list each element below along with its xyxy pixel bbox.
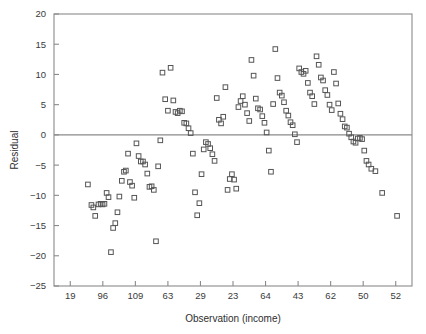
y-axis-tick-label: 10: [35, 69, 46, 80]
data-point: [115, 210, 120, 215]
data-point: [193, 190, 198, 195]
data-point: [314, 54, 319, 59]
axes-layer: [54, 14, 412, 286]
data-point: [306, 81, 311, 86]
data-point: [136, 154, 141, 159]
data-point: [210, 152, 215, 157]
data-point: [201, 147, 206, 152]
data-point: [262, 121, 267, 126]
data-point: [267, 148, 272, 153]
y-axis-tick-label: 5: [41, 99, 46, 110]
y-axis-tick-label: 20: [35, 8, 46, 19]
data-point: [323, 88, 328, 93]
data-point: [145, 171, 150, 176]
data-point: [186, 126, 191, 131]
data-point: [329, 108, 334, 113]
x-axis-tick-label: 64: [260, 290, 271, 301]
data-point: [171, 98, 176, 103]
y-axis-tick-label: −5: [35, 160, 46, 171]
y-axis-tick-label: −15: [30, 220, 46, 231]
data-point: [251, 73, 256, 78]
data-point: [223, 85, 228, 90]
x-axis-title: Observation (income): [185, 313, 281, 324]
data-point: [271, 102, 276, 107]
data-point: [158, 138, 163, 143]
data-point: [117, 194, 122, 199]
x-axis-tick-label: 62: [325, 290, 336, 301]
data-point: [132, 195, 137, 200]
y-axis-tick-label: 15: [35, 39, 46, 50]
data-point: [293, 132, 298, 137]
y-axis-tick-label: −25: [30, 280, 46, 291]
data-point: [295, 140, 300, 145]
data-point: [336, 101, 341, 106]
data-point: [195, 213, 200, 218]
axis-labels-layer: 20151050−5−10−15−20−25199610963292364436…: [30, 8, 401, 301]
data-point: [275, 76, 280, 81]
data-point: [163, 97, 168, 102]
data-point: [325, 93, 330, 98]
data-point: [253, 96, 258, 101]
data-point: [191, 151, 196, 156]
data-point: [380, 191, 385, 196]
data-point: [269, 169, 274, 174]
data-point: [86, 182, 91, 187]
data-point: [109, 250, 114, 255]
data-point: [126, 151, 131, 156]
data-point: [340, 117, 345, 122]
data-point: [120, 179, 125, 184]
y-axis-tick-label: −10: [30, 190, 46, 201]
data-point: [284, 108, 289, 113]
data-point: [327, 102, 332, 107]
data-point: [312, 102, 317, 107]
data-point: [286, 113, 291, 118]
data-point: [197, 201, 202, 206]
x-axis-tick-label: 50: [358, 290, 369, 301]
data-point: [282, 100, 287, 105]
data-point: [230, 172, 235, 177]
x-axis-tick-label: 63: [163, 290, 174, 301]
data-point: [113, 221, 118, 226]
data-point: [338, 111, 343, 116]
data-point: [212, 159, 217, 164]
data-point: [160, 70, 165, 75]
x-axis-tick-label: 43: [293, 290, 304, 301]
x-axis-tick-label: 96: [98, 290, 109, 301]
data-point: [362, 148, 367, 153]
data-point: [154, 239, 159, 244]
data-point: [134, 141, 139, 146]
data-point: [260, 114, 265, 119]
y-axis-tick-label: −20: [30, 250, 46, 261]
data-point: [199, 172, 204, 177]
data-point: [234, 186, 239, 191]
data-point: [249, 58, 254, 63]
data-point: [334, 81, 339, 86]
data-point: [245, 111, 250, 116]
chart-canvas: 20151050−5−10−15−20−25199610963292364436…: [0, 0, 426, 334]
data-point: [316, 62, 321, 67]
residual-scatter-chart: 20151050−5−10−15−20−25199610963292364436…: [0, 0, 426, 334]
x-axis-tick-label: 109: [127, 290, 143, 301]
data-point: [156, 164, 161, 169]
data-point: [395, 214, 400, 219]
data-point: [111, 226, 116, 231]
data-point: [214, 96, 219, 101]
data-point: [236, 105, 241, 110]
data-point: [273, 47, 278, 52]
data-point: [264, 130, 269, 135]
y-axis-title: Residual: [9, 131, 20, 170]
data-points-layer: [86, 47, 400, 255]
x-axis-tick-label: 29: [195, 290, 206, 301]
y-axis-tick-label: 0: [41, 129, 46, 140]
plot-frame: [54, 14, 412, 286]
data-point: [166, 108, 171, 113]
data-point: [247, 119, 252, 124]
data-point: [332, 70, 337, 75]
x-axis-tick-label: 23: [228, 290, 239, 301]
data-point: [240, 94, 245, 99]
data-point: [225, 188, 230, 193]
data-point: [93, 214, 98, 219]
x-axis-tick-label: 19: [65, 290, 76, 301]
data-point: [168, 66, 173, 71]
x-axis-tick-label: 52: [390, 290, 401, 301]
